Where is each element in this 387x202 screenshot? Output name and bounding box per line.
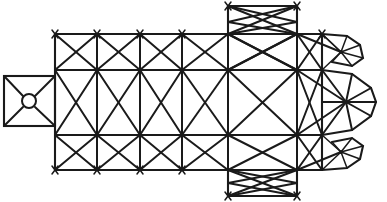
north-chapel-keystone-hub [339,50,343,54]
main-body-walls [55,34,322,170]
apse-rib-3 [346,88,371,102]
apse-rib-5 [346,102,371,116]
west-chamber-rib-sw [4,107,23,126]
south-chapel-rib-7 [322,135,341,152]
apse-rib-2 [346,74,352,102]
south-chapel-group [297,135,363,170]
nave-bays [55,70,322,135]
north-chapel-rib-7 [322,52,341,70]
north-transept-group [228,6,297,70]
south-aisle-bays [55,135,322,170]
north-aisle-bays [55,34,322,70]
south-chapel-keystone-hub [339,150,343,154]
south-chapel-rib-1 [322,152,341,170]
west-chamber-rib-ne [35,76,55,96]
apse-rib-1 [322,70,346,102]
apse-rib-7 [322,102,346,135]
apse-rib-6 [346,102,352,130]
south-transept-group [228,170,297,196]
apse-keystone-hub [344,100,349,105]
west-chamber-group [4,76,55,126]
north-chapel-group [297,34,363,70]
church-plan-figure: Gothic church vaulting plan Line drawing… [0,0,387,202]
west-chamber-rib-nw [4,76,23,96]
floor-plan-drawing [0,0,387,202]
west-chamber-rib-se [35,107,55,126]
west-chamber-circular-pier [22,94,36,108]
